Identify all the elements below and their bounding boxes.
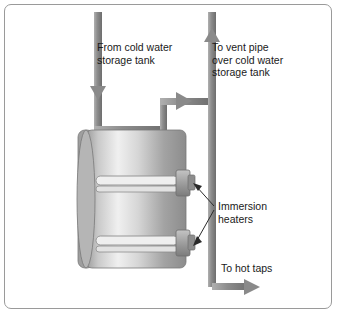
- diagram-root: From cold water storage tank To vent pip…: [0, 0, 338, 315]
- label-vent-pipe: To vent pipe over cold water storage tan…: [212, 41, 312, 79]
- cold-feed-pipe: [90, 12, 212, 133]
- label-hot-taps: To hot taps: [221, 262, 311, 275]
- label-immersion-heaters: Immersion heaters: [218, 200, 298, 225]
- label-cold-feed: From cold water storage tank: [97, 41, 193, 66]
